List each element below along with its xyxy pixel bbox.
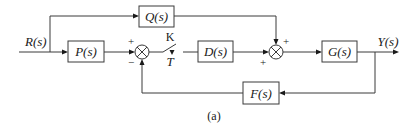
- block-diagram: R(s) Q(s) P(s) + − K T D(s) + +: [0, 0, 416, 138]
- sum2-top-plus-sign: +: [283, 35, 289, 47]
- summing-junction-1: [135, 45, 149, 59]
- block-p-label: P(s): [74, 44, 97, 59]
- arrow-p-sum1: [129, 50, 135, 55]
- arrow-q-sum2: [274, 39, 279, 45]
- arrow-to-p: [62, 50, 68, 55]
- block-q-label: Q(s): [145, 9, 168, 24]
- arrow-d-sum2: [263, 50, 269, 55]
- figure-caption: (a): [207, 109, 220, 123]
- input-label: R(s): [24, 34, 47, 49]
- switch-label-t: T: [166, 54, 174, 69]
- block-d-label: D(s): [203, 44, 227, 59]
- output-label: Y(s): [378, 34, 399, 49]
- summing-junction-2: [269, 45, 283, 59]
- arrow-to-f: [279, 91, 285, 96]
- arrow-sum2-g: [316, 50, 322, 55]
- sum1-plus-sign: +: [128, 35, 134, 47]
- sum2-left-plus-sign: +: [260, 56, 266, 68]
- switch-label-k: K: [166, 30, 175, 44]
- q-to-sum2-wire: [174, 16, 276, 43]
- feedback-wire-left: [142, 61, 243, 93]
- output-arrow: [393, 50, 399, 55]
- arrow-to-q: [133, 14, 139, 19]
- block-g-label: G(s): [328, 44, 351, 59]
- sum1-minus-sign: −: [128, 56, 134, 68]
- block-f-label: F(s): [249, 86, 272, 101]
- arrow-f-sum1: [140, 59, 145, 65]
